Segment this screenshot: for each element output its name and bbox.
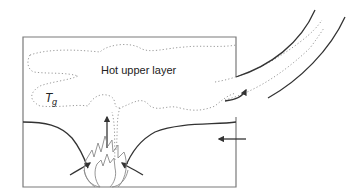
duct-upper-wall [236,10,315,77]
duct-lower-wall [268,17,345,98]
hot-layer-boundary [28,45,236,111]
fire-compartment-diagram: Hot upper layer T g [0,0,363,195]
gas-temperature-subscript: g [52,97,57,107]
entrainment-arrow-left [70,163,90,175]
outflow-arrow [225,90,246,101]
room-outline [23,37,236,187]
layer-interface-right [125,122,236,168]
layer-interface-left [23,122,88,168]
hot-upper-layer-label: Hot upper layer [101,64,177,76]
flame-icon [84,136,128,187]
duct-smoke-flow [215,20,324,100]
